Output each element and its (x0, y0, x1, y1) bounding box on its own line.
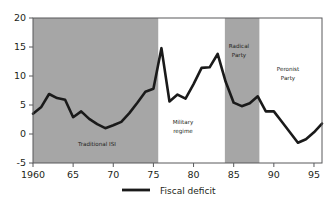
y-tick-label: 0 (20, 128, 26, 139)
band-label-peronist-party-line1: Peronist (277, 66, 300, 72)
y-tick-label: 10 (14, 70, 26, 81)
band-label-peronist-party-line2: Party (281, 75, 296, 82)
x-tick-label: 1960 (21, 169, 45, 180)
y-axis: 20151050-5 (14, 12, 33, 168)
chart-figure: Traditional ISI Military regime Radical … (0, 0, 336, 207)
band-label-military-regime-line1: Military (173, 119, 194, 126)
x-tick-label: 85 (228, 169, 240, 180)
x-tick-label: 65 (67, 169, 79, 180)
band-label-radical-party-line1: Radical (229, 43, 250, 49)
x-tick-label: 70 (107, 169, 119, 180)
fiscal-deficit-line-chart: Traditional ISI Military regime Radical … (0, 0, 336, 207)
y-tick-label: 20 (14, 12, 26, 23)
y-tick-label: 5 (20, 99, 26, 110)
x-tick-label: 80 (188, 169, 200, 180)
band-label-traditional-isi: Traditional ISI (77, 141, 116, 147)
band-label-radical-party-line2: Party (232, 52, 247, 59)
band-label-military-regime-line2: regime (173, 128, 193, 135)
x-tick-label: 90 (268, 169, 280, 180)
y-tick-label: -5 (17, 157, 26, 168)
x-tick-label: 75 (147, 169, 159, 180)
x-axis: 196065707580859095 (21, 163, 320, 180)
legend: Fiscal deficit (122, 186, 216, 196)
y-tick-label: 15 (14, 41, 26, 52)
legend-label-fiscal-deficit: Fiscal deficit (160, 186, 216, 196)
x-tick-label: 95 (308, 169, 320, 180)
